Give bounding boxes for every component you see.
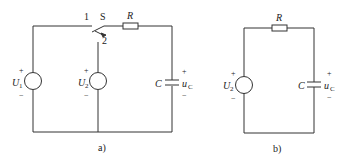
uc-sub-a: C: [188, 83, 193, 91]
voltage-source-u1: [25, 73, 42, 90]
uc-label-b: u: [324, 80, 329, 91]
switch-label: S: [100, 11, 106, 22]
u2-minus: −: [84, 91, 89, 100]
uc-minus-a: −: [182, 91, 187, 100]
caption-b: b): [273, 143, 281, 155]
capacitor-label-a: C: [155, 78, 162, 89]
u2-sub: 2: [85, 82, 89, 90]
u1-minus: −: [19, 91, 24, 100]
uc-plus-a: +: [182, 67, 187, 76]
uc-minus-b: −: [327, 93, 332, 102]
resistor-label-b: R: [275, 12, 282, 23]
voltage-source-u2-b: [236, 77, 253, 94]
u2b-minus: −: [231, 94, 236, 103]
caption-a: a): [98, 142, 106, 154]
uc-sub-b: C: [330, 85, 335, 93]
capacitor-label-b: C: [298, 80, 305, 91]
u1-sub: 1: [19, 82, 23, 90]
resistor-label-a: R: [126, 10, 133, 21]
switch-pos2-label: 2: [102, 35, 107, 46]
circuit-b: [236, 25, 322, 133]
resistor-r-b: [272, 25, 287, 31]
u2b-sub: 2: [230, 85, 234, 93]
switch-pos1-label: 1: [84, 11, 89, 22]
u1-plus: +: [19, 66, 24, 75]
u2-plus: +: [84, 66, 89, 75]
u2b-plus: +: [231, 69, 236, 78]
circuit-diagrams: 1 S 2 R + U 1 − + U 2 − C + u C − a) R +…: [0, 0, 346, 161]
switch-blade: [92, 26, 104, 32]
resistor-r-a: [123, 23, 138, 29]
voltage-source-u2: [90, 73, 107, 90]
uc-label-a: u: [182, 78, 187, 89]
uc-plus-b: +: [327, 69, 332, 78]
